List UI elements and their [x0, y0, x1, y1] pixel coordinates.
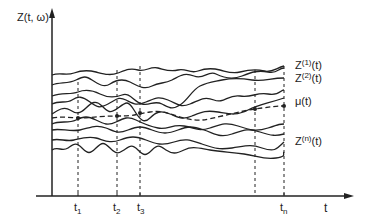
- y-axis-arrow-icon: [49, 8, 55, 18]
- series-label-zn: Z(n)(t): [295, 135, 322, 147]
- diagram-graphics: [0, 0, 366, 222]
- time-markers: [78, 66, 284, 196]
- series-label-mu: μ(t): [295, 96, 312, 107]
- path-4: [52, 90, 284, 107]
- x-axis-label: t: [324, 202, 327, 214]
- y-axis-label: Z(t, ω): [17, 12, 49, 23]
- x-axis-arrow-icon: [344, 193, 354, 199]
- series-label-z1: Z(1)(t): [295, 59, 322, 71]
- sample-paths: [52, 66, 284, 159]
- series-label-z2: Z(2)(t): [295, 72, 322, 84]
- path-3: [52, 78, 284, 108]
- mean-curve: [52, 106, 284, 120]
- tick-label-t3: t3: [137, 202, 145, 216]
- path-8: [52, 137, 284, 150]
- tick-label-tn: tn: [280, 202, 288, 216]
- tick-label-t1: t1: [74, 202, 82, 216]
- tick-label-t2: t2: [113, 202, 121, 216]
- stochastic-process-diagram: Z(t, ω) t t1 t2 t3 tn Z(1)(t) Z(2)(t) μ(…: [0, 0, 366, 222]
